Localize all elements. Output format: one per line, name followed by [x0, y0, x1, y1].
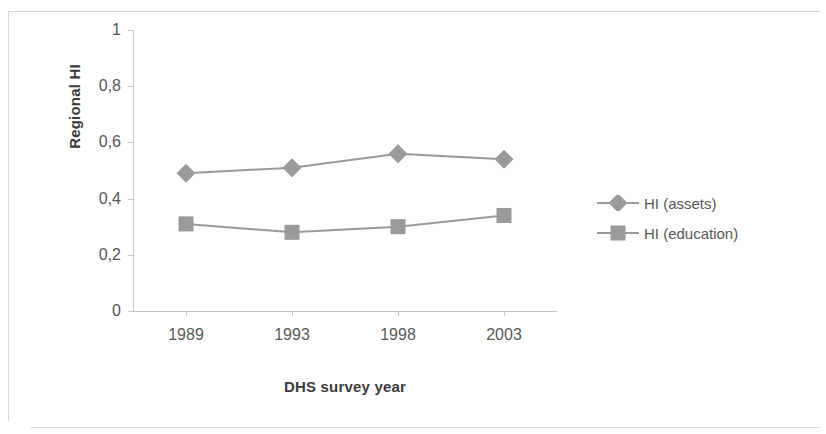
x-axis-line: [133, 311, 557, 312]
y-axis-title: Regional HI: [66, 27, 83, 187]
chart-figure: Regional HI DHS survey year 00,20,40,60,…: [0, 0, 826, 434]
y-axis-tick-label: 0,4: [99, 190, 121, 208]
legend-swatch-square: [596, 225, 640, 241]
x-axis-tick-label: 2003: [486, 326, 522, 344]
data-point-marker-diamond: [283, 158, 302, 177]
page-bottom-rule: [30, 427, 820, 428]
data-point-marker-square: [179, 216, 194, 231]
data-point-marker-diamond: [609, 195, 628, 211]
legend-label: HI (education): [644, 225, 738, 242]
x-axis-tick-mark: [398, 311, 399, 316]
data-point-marker-square: [285, 225, 300, 240]
series-2: [179, 208, 512, 240]
y-axis-tick-mark: [128, 311, 134, 312]
series-line: [186, 154, 504, 174]
y-axis-tick-label: 1: [112, 21, 121, 39]
data-point-marker-square: [497, 208, 512, 223]
page-frame-left-border: [8, 11, 9, 421]
plot-area: 00,20,40,60,81 1989199319982003: [133, 30, 557, 311]
y-axis-tick-label: 0,6: [99, 133, 121, 151]
x-axis-title: DHS survey year: [133, 378, 557, 395]
legend-item: HI (education): [596, 218, 816, 248]
x-axis-tick-mark: [186, 311, 187, 316]
data-point-marker-square: [611, 226, 626, 241]
data-point-marker-square: [391, 219, 406, 234]
legend-label: HI (assets): [644, 195, 717, 212]
data-point-marker-diamond: [495, 150, 514, 169]
series-line: [186, 215, 504, 232]
y-axis-tick-label: 0,8: [99, 77, 121, 95]
x-axis-tick-label: 1989: [168, 326, 204, 344]
x-axis-tick-label: 1993: [274, 326, 310, 344]
x-axis-tick-mark: [292, 311, 293, 316]
legend-swatch-diamond: [596, 195, 640, 211]
legend-item: HI (assets): [596, 188, 816, 218]
data-series-layer: [133, 30, 557, 311]
chart-legend: HI (assets)HI (education): [596, 188, 816, 248]
x-axis-tick-label: 1998: [380, 326, 416, 344]
data-point-marker-diamond: [177, 164, 196, 183]
page-frame-top-border: [8, 11, 820, 12]
series-1: [177, 144, 514, 183]
y-axis-tick-label: 0: [112, 302, 121, 320]
data-point-marker-diamond: [389, 144, 408, 163]
x-axis-tick-mark: [504, 311, 505, 316]
y-axis-tick-label: 0,2: [99, 246, 121, 264]
